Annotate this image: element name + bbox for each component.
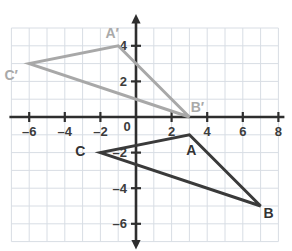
y-tick-label: –4 — [113, 181, 128, 196]
x-tick-label: 8 — [275, 124, 282, 139]
x-tick-label: –2 — [93, 124, 107, 139]
x-tick-label: 4 — [204, 124, 212, 139]
vertex-labels: A′B′C′ABC — [4, 25, 273, 221]
axis-arrowhead — [131, 240, 140, 250]
vertex-label: A′ — [105, 25, 119, 41]
x-tick-label: –4 — [58, 124, 73, 139]
x-tick-label: 6 — [239, 124, 246, 139]
axis-arrowhead — [131, 14, 140, 24]
vertex-label: B′ — [191, 99, 205, 115]
vertex-label: C — [75, 143, 85, 159]
vertex-label: C′ — [4, 67, 18, 83]
vertex-label: A — [186, 142, 196, 158]
y-tick-label: –6 — [113, 216, 127, 231]
coordinate-plane-figure: –6–4–20246842–2–4–6 A′B′C′ABC — [0, 0, 292, 251]
origin-label: 0 — [123, 119, 130, 134]
y-tick-label: 2 — [120, 74, 127, 89]
vertex-label: B — [264, 205, 274, 221]
x-tick-label: –6 — [22, 124, 36, 139]
coordinate-plane-svg: –6–4–20246842–2–4–6 A′B′C′ABC — [0, 0, 292, 251]
